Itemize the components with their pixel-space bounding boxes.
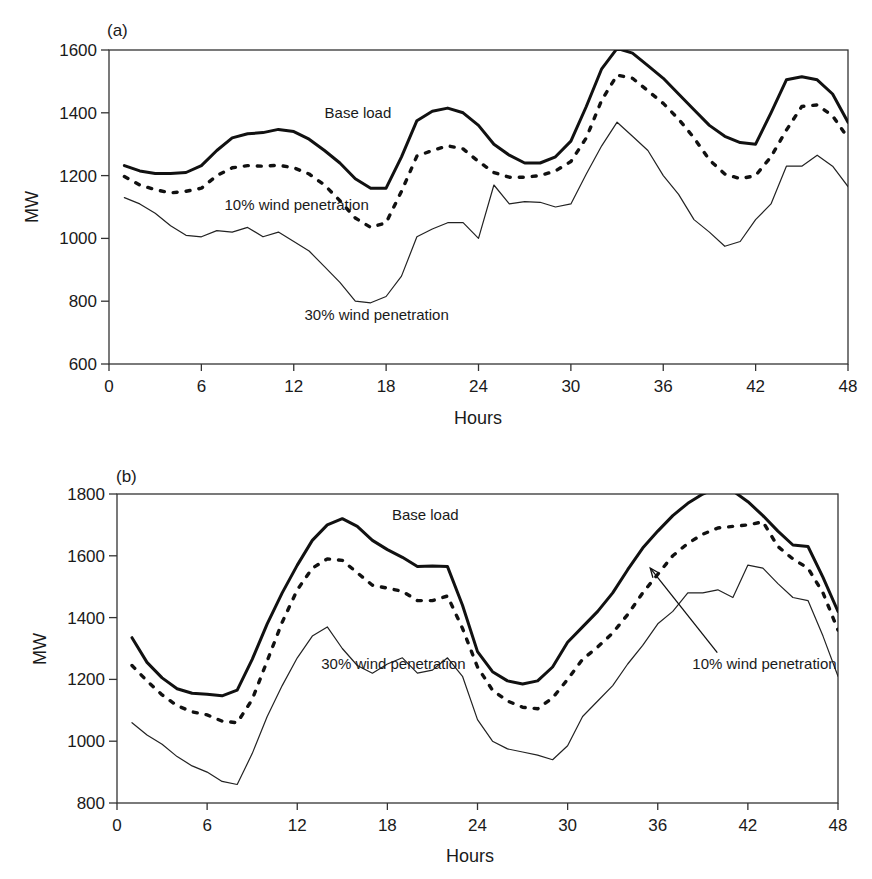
series-30-wind-penetration	[132, 565, 838, 784]
x-tick-label: 48	[829, 816, 848, 835]
annotation-label: 10% wind penetration	[692, 655, 836, 672]
x-tick-label: 0	[112, 816, 121, 835]
panel-b-x-axis: 0612182430364248	[112, 803, 847, 835]
annotation-label: 10% wind penetration	[224, 196, 368, 213]
x-tick-label: 12	[288, 816, 307, 835]
y-tick-label: 1600	[67, 547, 105, 566]
y-tick-label: 1200	[59, 167, 97, 186]
annotation-label: 30% wind penetration	[305, 306, 449, 323]
x-tick-label: 30	[561, 377, 580, 396]
annotation-label: Base load	[392, 506, 459, 523]
x-tick-label: 42	[738, 816, 757, 835]
series-10-wind-penetration	[132, 522, 838, 723]
y-tick-label: 1400	[67, 609, 105, 628]
y-tick-label: 1800	[67, 485, 105, 504]
x-tick-label: 36	[648, 816, 667, 835]
panel-a-label: (a)	[107, 21, 128, 40]
panel-b-x-axis-title: Hours	[446, 846, 494, 866]
x-tick-label: 36	[654, 377, 673, 396]
y-tick-label: 1400	[59, 104, 97, 123]
y-tick-label: 1000	[59, 229, 97, 248]
panel-a-series	[124, 48, 848, 302]
x-tick-label: 30	[558, 816, 577, 835]
panel-b-y-axis-title: MW	[30, 633, 50, 665]
x-tick-label: 42	[746, 377, 765, 396]
panel-a-annotations: Base load10% wind penetration30% wind pe…	[224, 104, 448, 324]
y-tick-label: 1600	[59, 41, 97, 60]
chart-canvas: (a) 6008001000120014001600 0612182430364…	[0, 0, 872, 879]
y-tick-label: 1000	[67, 732, 105, 751]
panel-a-y-axis: 6008001000120014001600	[59, 41, 109, 374]
x-tick-label: 48	[839, 377, 858, 396]
y-tick-label: 1200	[67, 670, 105, 689]
x-tick-label: 0	[104, 377, 113, 396]
annotation-arrow	[650, 568, 717, 652]
panel-b-label: (b)	[116, 467, 137, 486]
panel-b: (b) 80010001200140016001800 061218243036…	[30, 467, 847, 866]
panel-a: (a) 6008001000120014001600 0612182430364…	[22, 21, 857, 428]
panel-b-series	[132, 488, 838, 785]
panel-a-x-axis-title: Hours	[454, 408, 502, 428]
x-tick-label: 24	[468, 816, 487, 835]
panel-a-plot-frame	[109, 50, 848, 364]
annotation-label: 30% wind penetration	[321, 655, 465, 672]
panel-b-y-axis: 80010001200140016001800	[67, 485, 117, 813]
x-tick-label: 12	[284, 377, 303, 396]
x-tick-label: 18	[378, 816, 397, 835]
y-tick-label: 800	[77, 794, 105, 813]
x-tick-label: 6	[202, 816, 211, 835]
annotation-label: Base load	[325, 104, 392, 121]
x-tick-label: 6	[197, 377, 206, 396]
panel-a-y-axis-title: MW	[22, 191, 42, 223]
y-tick-label: 600	[69, 355, 97, 374]
panel-a-x-axis: 0612182430364248	[104, 364, 857, 396]
y-tick-label: 800	[69, 292, 97, 311]
x-tick-label: 24	[469, 377, 488, 396]
x-tick-label: 18	[377, 377, 396, 396]
